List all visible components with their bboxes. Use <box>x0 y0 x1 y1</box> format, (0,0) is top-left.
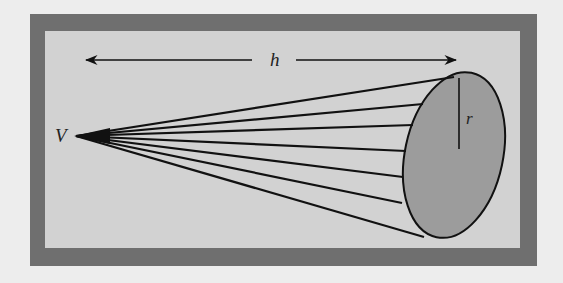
cone-diagram: h V r <box>0 0 563 283</box>
height-label: h <box>270 49 280 70</box>
radius-label: r <box>466 109 473 128</box>
